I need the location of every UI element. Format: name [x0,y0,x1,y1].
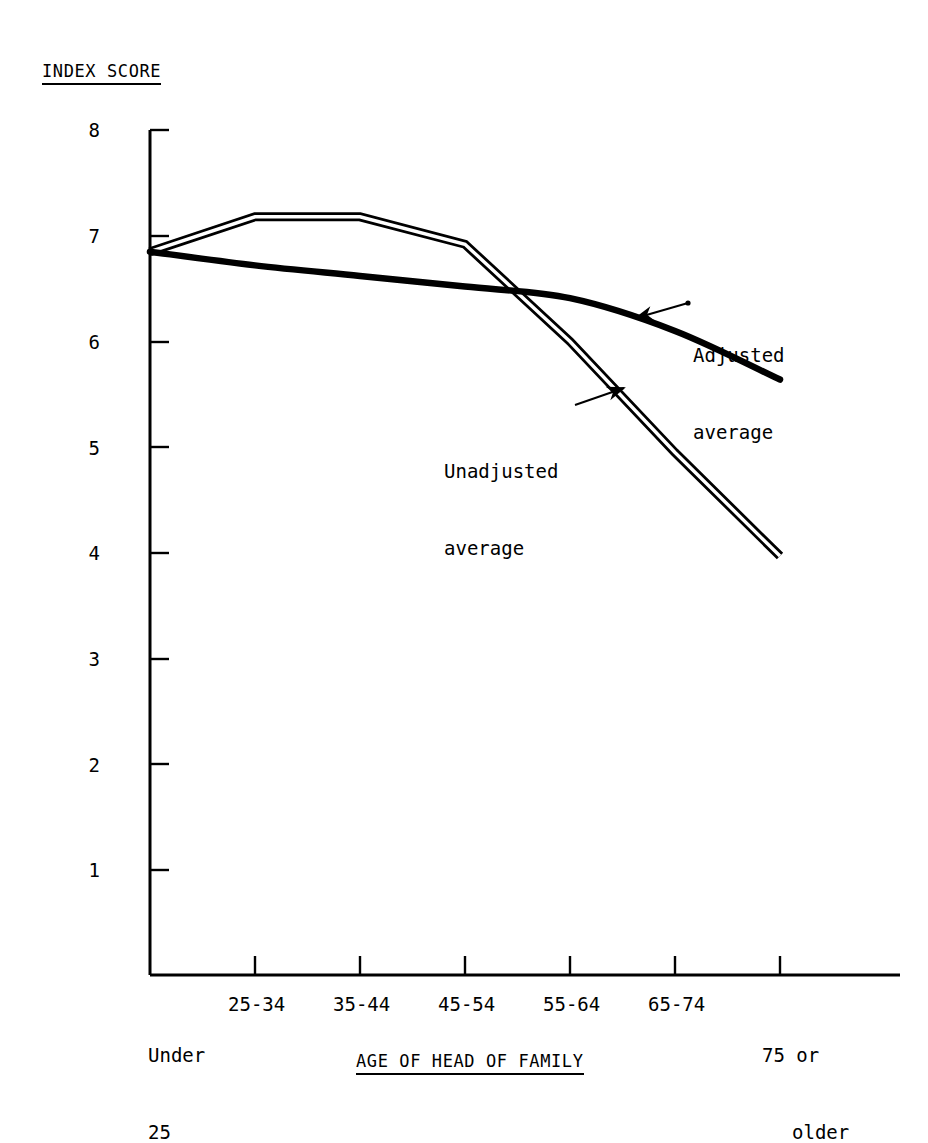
x-tick-label-under-25-line2: 25 [148,1120,205,1143]
series-unadjusted-average [150,217,780,556]
adjusted-average-arrow-icon [636,303,688,318]
x-tick-label-75-or-older-line2: older [792,1120,849,1143]
series-adjusted-average-curve [150,252,780,380]
adjusted-average-leader-dot-icon [685,300,690,305]
series-unadjusted-average-inner [150,217,780,556]
chart-axes [150,130,900,975]
series-unadjusted-average-outline [150,217,780,556]
series-adjusted-average [150,252,780,380]
